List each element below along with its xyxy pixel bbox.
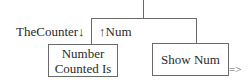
module-label: Show Num: [161, 52, 220, 67]
continuation-arrow-icon: =>: [229, 64, 241, 75]
connector-top-vertical: [143, 0, 144, 18]
module-label-line2: Counted Is: [55, 61, 112, 76]
connector-left-vertical: [91, 18, 92, 44]
couple-label-thecounter: TheCounter↓: [16, 24, 85, 39]
module-show-num[interactable]: Show Num: [152, 43, 229, 76]
module-label-line1: Number: [62, 46, 105, 61]
couple-label-num: ↑Num: [99, 24, 132, 39]
connector-horizontal: [91, 18, 197, 19]
connector-right-vertical: [196, 18, 197, 43]
module-number-counted-is[interactable]: Number Counted Is: [48, 44, 118, 77]
